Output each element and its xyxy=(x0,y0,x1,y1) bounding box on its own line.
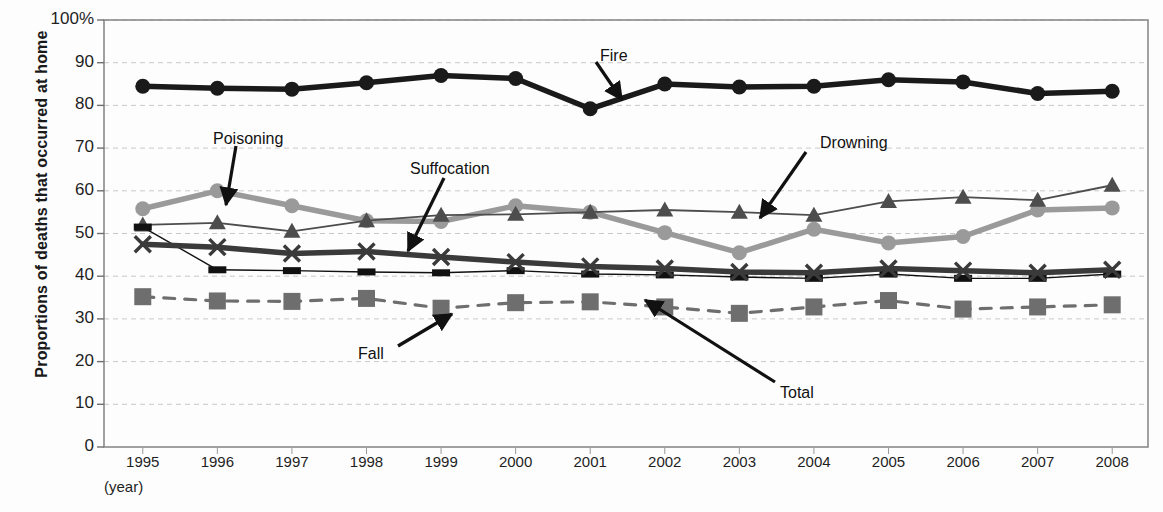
x-tick-2005: 2005 xyxy=(853,453,923,470)
x-tick-2002: 2002 xyxy=(630,453,700,470)
series-poisoning xyxy=(135,183,1119,260)
y-tick-40: 40 xyxy=(34,265,94,285)
x-tick-2007: 2007 xyxy=(1003,453,1073,470)
y-tick-60: 60 xyxy=(34,180,94,200)
annotation-label-drowning: Drowning xyxy=(820,134,888,152)
x-tick-1998: 1998 xyxy=(331,453,401,470)
annotation-label-suffocation: Suffocation xyxy=(410,160,490,178)
y-tick-50: 50 xyxy=(34,223,94,243)
y-tick-10: 10 xyxy=(34,393,94,413)
annotation-label-poisoning: Poisoning xyxy=(213,130,283,148)
gridlines xyxy=(104,20,1148,404)
x-tick-2000: 2000 xyxy=(481,453,551,470)
x-tick-1997: 1997 xyxy=(257,453,327,470)
y-tick-80: 80 xyxy=(34,94,94,114)
annotation-label-fire: Fire xyxy=(600,47,628,65)
series-drowning xyxy=(134,177,1120,238)
y-tick-30: 30 xyxy=(34,308,94,328)
x-axis-unit-label: (year) xyxy=(104,478,143,495)
annotation-arrows xyxy=(226,62,806,382)
x-tick-2008: 2008 xyxy=(1077,453,1147,470)
x-tick-1999: 1999 xyxy=(406,453,476,470)
y-tick-70: 70 xyxy=(34,137,94,157)
series-layer xyxy=(134,68,1121,322)
series-fire xyxy=(135,68,1119,116)
x-tick-2004: 2004 xyxy=(779,453,849,470)
x-tick-1995: 1995 xyxy=(108,453,178,470)
annotation-label-fall: Fall xyxy=(358,345,384,363)
x-tick-2001: 2001 xyxy=(555,453,625,470)
x-tick-2003: 2003 xyxy=(704,453,774,470)
y-tick-20: 20 xyxy=(34,351,94,371)
y-tick-100: 100% xyxy=(34,9,94,29)
y-tick-90: 90 xyxy=(34,52,94,72)
x-tick-2006: 2006 xyxy=(928,453,998,470)
y-tick-0: 0 xyxy=(34,436,94,456)
annotation-label-total: Total xyxy=(780,384,814,402)
chart-plot-area xyxy=(0,0,1163,512)
chart-figure: Proportions of deaths that occurred at h… xyxy=(0,0,1163,512)
series-fall xyxy=(134,288,1120,322)
x-tick-1996: 1996 xyxy=(182,453,252,470)
